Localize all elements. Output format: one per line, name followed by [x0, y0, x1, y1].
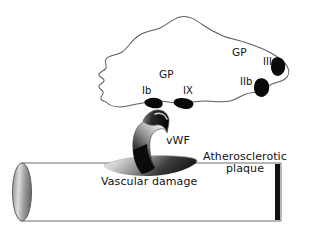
platelet-adhesion-figure — [0, 0, 310, 231]
glycoprotein-iib-receptor — [254, 78, 269, 97]
label-atherosclerotic-plaque: Atherosclerotic plaque — [203, 151, 287, 174]
label-vwf: vWF — [166, 135, 190, 147]
label-receptor-iib: IIb — [240, 77, 253, 88]
label-plaque-line2: plaque — [203, 163, 287, 175]
label-vascular-damage: Vascular damage — [101, 176, 197, 188]
label-receptor-iiia: IIIa — [263, 57, 278, 68]
vessel-lumen-cap — [13, 163, 32, 221]
label-receptor-ix: IX — [183, 86, 193, 97]
label-gp-right: GP — [232, 47, 247, 58]
label-gp-left: GP — [159, 69, 174, 80]
diagram-canvas: GP Ib IX GP IIIa IIb vWF Atherosclerotic… — [0, 0, 310, 231]
label-receptor-ib: Ib — [142, 86, 152, 97]
